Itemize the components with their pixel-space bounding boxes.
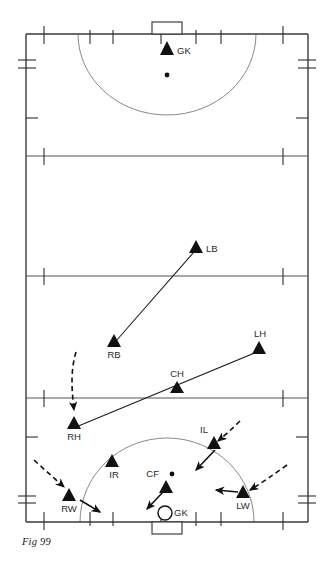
player-label: CF bbox=[146, 468, 159, 479]
player-label: GK bbox=[177, 45, 191, 56]
player-label: LH bbox=[254, 328, 266, 339]
pitch-surface bbox=[26, 34, 308, 522]
player-label: RB bbox=[107, 349, 120, 360]
player-label: IL bbox=[200, 424, 208, 435]
player-marker-gk-bottom[interactable]: GK bbox=[158, 506, 188, 520]
player-label: CH bbox=[170, 368, 184, 379]
hockey-pitch-diagram: GK LB RB LH CH RH bbox=[0, 0, 335, 567]
player-circle-icon bbox=[158, 506, 172, 520]
bottom-ball-spot bbox=[170, 472, 175, 477]
top-penalty-spot bbox=[165, 73, 170, 78]
top-goal bbox=[152, 22, 182, 34]
player-label: RH bbox=[67, 431, 81, 442]
player-label: RW bbox=[61, 503, 77, 514]
hockey-field-figure: GK LB RB LH CH RH bbox=[0, 0, 335, 567]
player-label: LB bbox=[206, 243, 218, 254]
figure-caption: Fig 99 bbox=[22, 536, 51, 547]
player-label: IR bbox=[109, 469, 119, 480]
bottom-goal bbox=[152, 522, 182, 534]
player-label: GK bbox=[174, 507, 188, 518]
player-label: LW bbox=[236, 500, 250, 511]
